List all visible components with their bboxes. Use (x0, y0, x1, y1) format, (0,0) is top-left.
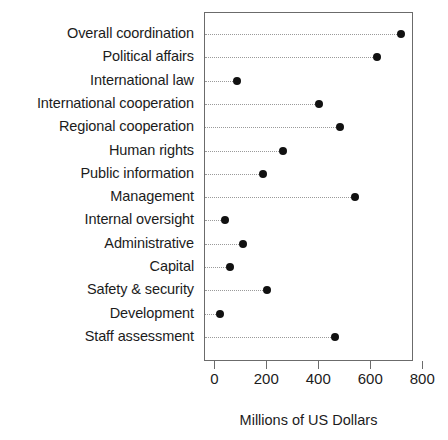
data-point (233, 77, 241, 85)
data-point (397, 30, 405, 38)
x-axis-tick (214, 361, 215, 369)
x-axis-tick-label: 400 (288, 371, 348, 386)
row-guide-line (205, 314, 216, 315)
category-label: Human rights (0, 143, 194, 158)
category-label: Capital (0, 259, 194, 274)
row-guide-line (205, 34, 397, 35)
x-axis (204, 361, 413, 369)
x-axis-tick (266, 361, 267, 369)
category-label: Overall coordination (0, 26, 194, 41)
plot-panel (204, 12, 413, 361)
data-point (263, 286, 271, 294)
row-guide-line (205, 244, 239, 245)
row-guide-line (205, 267, 226, 268)
row-guide-line (205, 220, 221, 221)
row-guide-line (205, 337, 331, 338)
data-point (221, 216, 229, 224)
dot-plot-chart: Overall coordinationPolitical affairsInt… (0, 0, 448, 440)
category-label: International cooperation (0, 96, 194, 111)
row-guide-line (205, 104, 315, 105)
data-point (226, 263, 234, 271)
x-axis-tick (370, 361, 371, 369)
row-guide-line (205, 127, 336, 128)
data-point (216, 310, 224, 318)
category-label: Regional cooperation (0, 119, 194, 134)
category-label: Development (0, 306, 194, 321)
data-point (279, 147, 287, 155)
category-label: Internal oversight (0, 212, 194, 227)
row-guide-line (205, 197, 351, 198)
row-guide-line (205, 81, 233, 82)
row-guide-line (205, 290, 263, 291)
x-axis-tick-label: 200 (236, 371, 296, 386)
x-axis-tick-label: 0 (184, 371, 244, 386)
category-label: International law (0, 73, 194, 88)
row-guide-line (205, 174, 259, 175)
x-axis-tick (422, 361, 423, 369)
data-point (351, 193, 359, 201)
data-point (336, 123, 344, 131)
category-label: Management (0, 189, 194, 204)
category-label: Political affairs (0, 49, 194, 64)
category-label: Public information (0, 166, 194, 181)
row-guide-line (205, 57, 373, 58)
data-point (315, 100, 323, 108)
row-guide-line (205, 151, 279, 152)
category-axis-labels: Overall coordinationPolitical affairsInt… (0, 0, 196, 360)
category-label: Safety & security (0, 282, 194, 297)
category-label: Staff assessment (0, 329, 194, 344)
x-axis-title: Millions of US Dollars (204, 412, 413, 428)
data-point (331, 333, 339, 341)
data-point (373, 53, 381, 61)
category-label: Administrative (0, 236, 194, 251)
data-point (239, 240, 247, 248)
data-point (259, 170, 267, 178)
x-axis-tick-label: 600 (340, 371, 400, 386)
x-axis-tick (318, 361, 319, 369)
x-axis-tick-label: 800 (392, 371, 448, 386)
